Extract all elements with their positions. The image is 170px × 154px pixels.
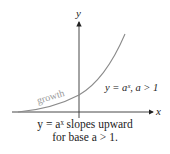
curve-equation: y = aˣ, a > 1 [104,82,158,93]
growth-curve [18,34,125,112]
caption-line-1: y = aˣ slopes upward [0,118,170,131]
y-axis-label: y [75,7,81,19]
x-axis-label: x [155,105,161,117]
caption-line-2: for base a > 1. [0,131,170,144]
figure-caption: y = aˣ slopes upward for base a > 1. [0,118,170,144]
